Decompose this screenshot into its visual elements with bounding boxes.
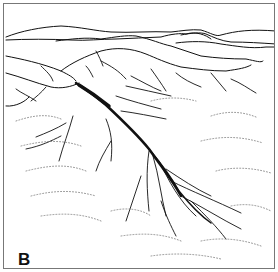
figure-frame: B [3,3,275,269]
tributaries [16,51,256,239]
dotted-fans [16,98,271,259]
panel-label: B [18,250,30,269]
ridgelines [6,26,275,106]
landscape-drawing [4,4,275,269]
